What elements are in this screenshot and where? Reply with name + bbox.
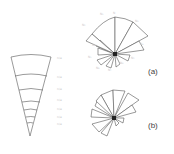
panel-label-a: (a) xyxy=(148,67,158,76)
petal-label: N₈ xyxy=(96,66,100,70)
petal-label: N₃ xyxy=(135,19,139,23)
petal-label: N₆ xyxy=(120,61,124,65)
petal-label: N₅ xyxy=(131,56,135,60)
ring-label: n/a xyxy=(57,115,62,119)
ring-label: n/a xyxy=(57,107,62,111)
petal-label: N xyxy=(113,11,115,15)
ring-label: n/a xyxy=(57,56,62,60)
petal-label: N₉ xyxy=(88,55,92,59)
panel-label-b: (b) xyxy=(148,121,158,130)
ring-label: n/a xyxy=(57,87,62,91)
wedge-diagram xyxy=(11,55,51,137)
ring-label: n/a xyxy=(57,122,62,126)
petal-label: N₁ xyxy=(100,12,104,16)
wedge-ring-labels: n/a n/a n/a n/a n/a n/a n/a xyxy=(57,56,62,126)
petal-label: N₇ xyxy=(108,68,112,72)
petal-label: N₁₀ xyxy=(92,43,97,47)
diagram-canvas: n/a n/a n/a n/a n/a n/a n/a N N₁ N₂ N₃ N… xyxy=(0,0,174,154)
petal-label: N₂ xyxy=(82,23,86,27)
ring-label: n/a xyxy=(57,98,62,102)
ring-label: n/a xyxy=(57,75,62,79)
rose-diagram-b xyxy=(91,90,139,136)
petal-label: N₄ xyxy=(140,42,144,46)
